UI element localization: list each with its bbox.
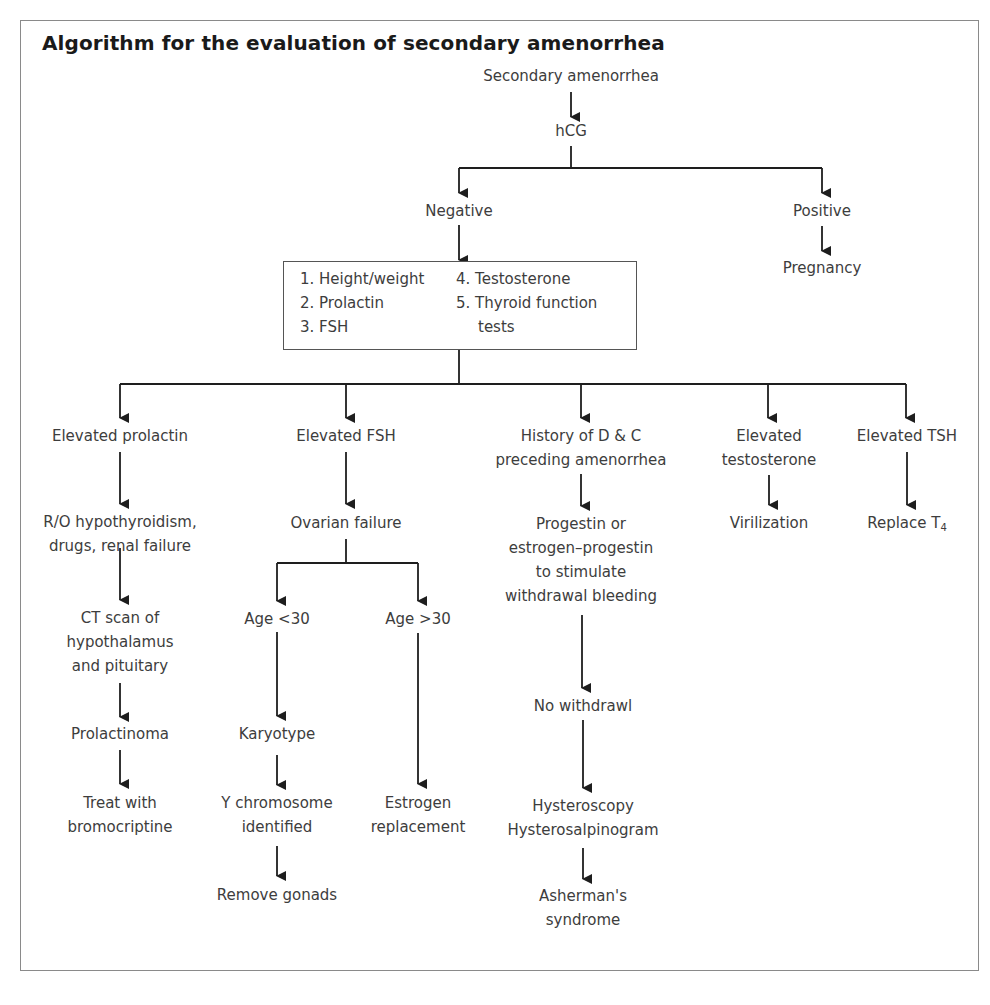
- node-elevated-prolactin: Elevated prolactin: [52, 424, 188, 448]
- node-karyotype: Karyotype: [239, 722, 316, 746]
- node-y-chromosome: Y chromosome identified: [221, 791, 332, 839]
- node-label: Age >30: [385, 607, 450, 631]
- node-secondary-amenorrhea: Secondary amenorrhea: [483, 64, 659, 88]
- node-remove-gonads: Remove gonads: [217, 883, 337, 907]
- node-label: Treat with: [67, 791, 172, 815]
- node-pregnancy: Pregnancy: [783, 256, 862, 280]
- node-label: CT scan of: [67, 606, 174, 630]
- flow-connectors: [0, 0, 990, 1005]
- node-asherman-syndrome: Asherman's syndrome: [539, 884, 627, 932]
- node-label: Positive: [793, 199, 851, 223]
- test-item: tests: [456, 315, 597, 339]
- node-label: Hysterosalpinogram: [507, 818, 658, 842]
- node-hcg: hCG: [555, 119, 587, 143]
- node-label: Virilization: [730, 511, 809, 535]
- node-label: to stimulate: [505, 560, 657, 584]
- node-ct-scan: CT scan of hypothalamus and pituitary: [67, 606, 174, 678]
- replace-t-text: Replace T: [867, 514, 940, 532]
- node-age-over-30: Age >30: [385, 607, 450, 631]
- node-ovarian-failure: Ovarian failure: [290, 511, 401, 535]
- node-rule-out: R/O hypothyroidism, drugs, renal failure: [43, 510, 196, 558]
- node-label: preceding amenorrhea: [496, 448, 667, 472]
- node-no-withdrawal: No withdrawl: [534, 694, 632, 718]
- node-label: History of D & C: [496, 424, 667, 448]
- node-label: No withdrawl: [534, 694, 632, 718]
- node-elevated-tsh: Elevated TSH: [857, 424, 957, 448]
- node-label: Progestin or: [505, 512, 657, 536]
- node-label: replacement: [371, 815, 466, 839]
- node-elevated-fsh: Elevated FSH: [296, 424, 396, 448]
- node-hysteroscopy: Hysteroscopy Hysterosalpinogram: [507, 794, 658, 842]
- node-label: testosterone: [722, 448, 817, 472]
- tests-column-left: 1. Height/weight 2. Prolactin 3. FSH: [300, 267, 424, 339]
- node-label: Replace T4: [867, 511, 947, 540]
- node-label: hypothalamus: [67, 630, 174, 654]
- node-label: Secondary amenorrhea: [483, 64, 659, 88]
- node-label: withdrawal bleeding: [505, 584, 657, 608]
- node-progestin-challenge: Progestin or estrogen–progestin to stimu…: [505, 512, 657, 608]
- initial-tests-box: 1. Height/weight 2. Prolactin 3. FSH 4. …: [283, 261, 637, 350]
- test-item: 4. Testosterone: [456, 267, 597, 291]
- node-label: Prolactinoma: [71, 722, 169, 746]
- node-label: Elevated prolactin: [52, 424, 188, 448]
- node-label: Negative: [425, 199, 492, 223]
- node-label: Estrogen: [371, 791, 466, 815]
- test-item: 2. Prolactin: [300, 291, 424, 315]
- node-label: Elevated TSH: [857, 424, 957, 448]
- node-label: Karyotype: [239, 722, 316, 746]
- node-positive: Positive: [793, 199, 851, 223]
- node-replace-t4: Replace T4: [867, 511, 947, 540]
- node-label: Elevated FSH: [296, 424, 396, 448]
- node-label: hCG: [555, 119, 587, 143]
- node-age-under-30: Age <30: [244, 607, 309, 631]
- node-treat-bromocriptine: Treat with bromocriptine: [67, 791, 172, 839]
- node-label: and pituitary: [67, 654, 174, 678]
- node-label: Y chromosome: [221, 791, 332, 815]
- node-label: drugs, renal failure: [43, 534, 196, 558]
- node-prolactinoma: Prolactinoma: [71, 722, 169, 746]
- node-label: bromocriptine: [67, 815, 172, 839]
- node-history-dc: History of D & C preceding amenorrhea: [496, 424, 667, 472]
- node-label: Asherman's: [539, 884, 627, 908]
- node-label: Remove gonads: [217, 883, 337, 907]
- node-virilization: Virilization: [730, 511, 809, 535]
- node-negative: Negative: [425, 199, 492, 223]
- node-label: identified: [221, 815, 332, 839]
- test-item: 3. FSH: [300, 315, 424, 339]
- node-label: syndrome: [539, 908, 627, 932]
- node-label: Ovarian failure: [290, 511, 401, 535]
- test-item: 5. Thyroid function: [456, 291, 597, 315]
- node-label: Age <30: [244, 607, 309, 631]
- test-item: 1. Height/weight: [300, 267, 424, 291]
- tests-column-right: 4. Testosterone 5. Thyroid function test…: [456, 267, 597, 339]
- node-estrogen-replacement: Estrogen replacement: [371, 791, 466, 839]
- t4-subscript: 4: [940, 522, 946, 533]
- node-label: Pregnancy: [783, 256, 862, 280]
- node-label: estrogen–progestin: [505, 536, 657, 560]
- node-label: Hysteroscopy: [507, 794, 658, 818]
- node-label: R/O hypothyroidism,: [43, 510, 196, 534]
- node-elevated-testosterone: Elevated testosterone: [722, 424, 817, 472]
- node-label: Elevated: [722, 424, 817, 448]
